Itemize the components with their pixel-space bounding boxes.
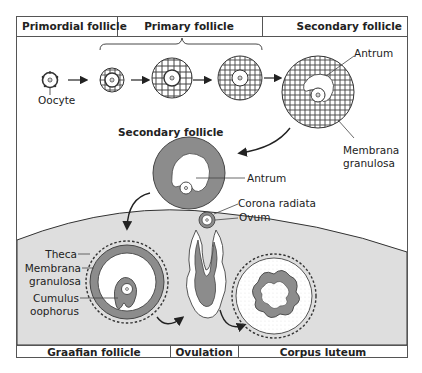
ovum bbox=[199, 212, 215, 228]
primary-follicle-early bbox=[100, 68, 124, 92]
primary-follicle-bracket bbox=[100, 38, 262, 50]
label-oocyte: Oocyte bbox=[38, 94, 75, 106]
footer-graafian-follicle: Graafian follicle bbox=[47, 346, 141, 358]
label-secondary-follicle-mid: Secondary follicle bbox=[118, 126, 223, 138]
primordial-follicle bbox=[42, 71, 59, 95]
label-antrum-mid: Antrum bbox=[247, 172, 286, 184]
label-cumulus-line1: Cumulus bbox=[33, 292, 79, 304]
label-theca: Theca bbox=[44, 248, 77, 260]
secondary-follicle-mid bbox=[153, 137, 225, 209]
primary-follicle-late bbox=[218, 56, 262, 100]
footer-ovulation: Ovulation bbox=[175, 346, 232, 358]
primary-follicle-multilayer bbox=[152, 58, 192, 98]
folliculogenesis-diagram: Primordial follicle Primary follicle Sec… bbox=[0, 0, 422, 373]
arrow-to-secondary bbox=[240, 128, 290, 153]
label-membrana-granulosa-line1: Membrana bbox=[343, 144, 399, 156]
footer-corpus-luteum: Corpus luteum bbox=[280, 346, 367, 358]
label-ovum: Ovum bbox=[239, 211, 270, 223]
label-cumulus-line2: oophorus bbox=[30, 305, 79, 317]
label-graafian-membrana-line1: Membrana bbox=[25, 262, 81, 274]
label-membrana-granulosa-line2: granulosa bbox=[343, 157, 395, 169]
secondary-follicle-top bbox=[282, 56, 354, 128]
label-antrum-top: Antrum bbox=[354, 47, 393, 59]
label-graafian-membrana-line2: granulosa bbox=[29, 275, 81, 287]
header-primary-follicle: Primary follicle bbox=[144, 20, 234, 32]
label-corona-radiata: Corona radiata bbox=[238, 197, 316, 209]
header-primordial-follicle: Primordial follicle bbox=[22, 20, 127, 32]
header-secondary-follicle: Secondary follicle bbox=[297, 20, 402, 32]
